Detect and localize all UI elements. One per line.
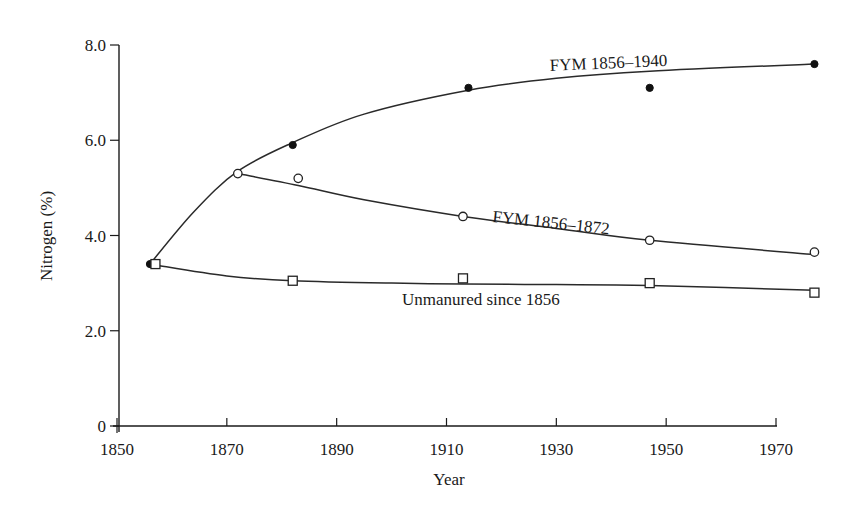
x-tick-label: 1890 bbox=[320, 440, 354, 459]
y-axis: 02.04.06.08.0 Nitrogen (%) bbox=[37, 36, 119, 436]
x-axis-title: Year bbox=[433, 470, 465, 489]
series-labels: FYM 1856–1940FYM 1856–1872Unmanured sinc… bbox=[402, 51, 668, 309]
series-label-unmanured-since-1856: Unmanured since 1856 bbox=[402, 290, 560, 309]
data-point-open-circle bbox=[234, 169, 242, 177]
data-point-open-circle bbox=[294, 174, 302, 182]
x-tick-label: 1870 bbox=[210, 440, 244, 459]
series-curves bbox=[150, 64, 815, 290]
series-points bbox=[146, 60, 819, 297]
data-point-open-circle bbox=[645, 236, 653, 244]
x-axis-ticks: 1850187018901910193019501970 bbox=[100, 418, 793, 459]
data-point-filled-circle bbox=[646, 84, 653, 91]
y-axis-ticks: 02.04.06.08.0 bbox=[85, 36, 119, 436]
x-tick-label: 1850 bbox=[100, 440, 134, 459]
data-point-open-circle bbox=[810, 248, 818, 256]
y-tick-label: 0 bbox=[98, 417, 107, 436]
data-point-square bbox=[288, 276, 297, 285]
x-tick-label: 1930 bbox=[539, 440, 573, 459]
data-point-filled-circle bbox=[289, 141, 296, 148]
data-point-square bbox=[810, 288, 819, 297]
data-point-square bbox=[458, 274, 467, 283]
x-tick-label: 1910 bbox=[430, 440, 464, 459]
y-tick-label: 8.0 bbox=[85, 36, 106, 55]
x-tick-label: 1970 bbox=[759, 440, 793, 459]
y-axis-title: Nitrogen (%) bbox=[37, 191, 56, 281]
data-point-square bbox=[151, 260, 160, 269]
x-axis: 1850187018901910193019501970 Year bbox=[100, 418, 793, 489]
data-point-filled-circle bbox=[465, 84, 472, 91]
nitrogen-line-chart: 02.04.06.08.0 Nitrogen (%) 1850187018901… bbox=[0, 0, 856, 512]
series-label-fym-1856-1872: FYM 1856–1872 bbox=[492, 207, 611, 238]
y-tick-label: 4.0 bbox=[85, 227, 106, 246]
y-tick-label: 2.0 bbox=[85, 322, 106, 341]
curve-fym-1856-1940 bbox=[150, 64, 815, 264]
data-point-square bbox=[645, 279, 654, 288]
x-tick-label: 1950 bbox=[649, 440, 683, 459]
data-point-open-circle bbox=[459, 212, 467, 220]
y-tick-label: 6.0 bbox=[85, 131, 106, 150]
curve-unmanured-since-1856 bbox=[155, 265, 814, 290]
data-point-filled-circle bbox=[811, 60, 818, 67]
